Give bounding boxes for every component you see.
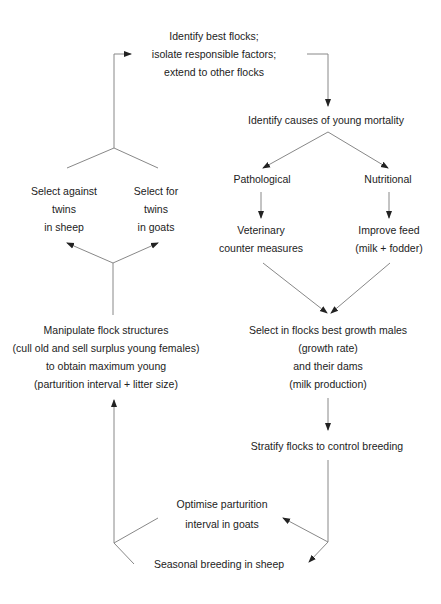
line-select-for-up [114,148,158,168]
node-line: Manipulate flock structures [13,321,200,339]
arrow-to-pathological [263,132,328,168]
node-line: Identify causes of young mortality [248,111,404,129]
node-line: Stratify flocks to control breeding [251,437,403,455]
node-select-for: Select for twins in goats [134,182,178,236]
node-line: Improve feed [355,221,422,239]
node-line: (growth rate) [249,339,407,357]
node-line: twins [31,200,97,218]
node-line: twins [134,200,178,218]
node-line: and their dams [249,357,407,375]
node-line: to obtain maximum young [13,357,200,375]
node-line: Nutritional [364,170,411,188]
node-line: in goats [134,218,178,236]
node-select-against: Select against twins in sheep [31,182,97,236]
line-optimise-out [114,518,158,543]
node-line: isolate responsible factors; [152,45,276,63]
node-nutritional: Nutritional [364,170,411,188]
line-seasonal-out [114,543,134,564]
node-line: (milk production) [249,375,407,393]
node-pathological: Pathological [233,170,290,188]
node-improve-feed: Improve feed (milk + fodder) [355,221,422,257]
arrow-to-optimise [283,518,328,542]
node-identify-causes: Identify causes of young mortality [248,111,404,129]
node-select-growth: Select in flocks best growth males (grow… [249,321,407,393]
node-line: Identify best flocks; [152,27,276,45]
node-line: Pathological [233,170,290,188]
node-veterinary: Veterinary counter measures [219,221,303,257]
arrow-to-select-for [113,243,158,263]
arrow-to-identify-causes [307,54,328,106]
node-line: Select for [134,182,178,200]
arrow-feed-to-select [331,263,390,313]
node-line: extend to other flocks [152,63,276,81]
node-line: Veterinary [219,221,303,239]
line-select-against-up [67,148,114,168]
node-stratify: Stratify flocks to control breeding [251,437,403,455]
node-line: Select against [31,182,97,200]
node-line: interval in goats [176,515,267,533]
node-optimise: Optimise parturition interval in goats [176,495,267,533]
node-manipulate: Manipulate flock structures (cull old an… [13,321,200,393]
node-line: (parturition interval + litter size) [13,375,200,393]
node-line: counter measures [219,239,303,257]
node-line: (cull old and sell surplus young females… [13,339,200,357]
arrow-veterinary-to-select [263,263,327,313]
node-line: Optimise parturition [176,495,267,515]
node-line: Seasonal breeding in sheep [154,555,284,573]
arrow-to-identify-best [114,54,131,148]
node-line: Select in flocks best growth males [249,321,407,339]
node-line: (milk + fodder) [355,239,422,257]
node-seasonal: Seasonal breeding in sheep [154,555,284,573]
arrow-to-seasonal [309,542,328,562]
node-line: in sheep [31,218,97,236]
arrow-to-nutritional [328,132,388,168]
node-identify-best: Identify best flocks; isolate responsibl… [152,27,276,81]
arrow-to-select-against [67,243,113,263]
